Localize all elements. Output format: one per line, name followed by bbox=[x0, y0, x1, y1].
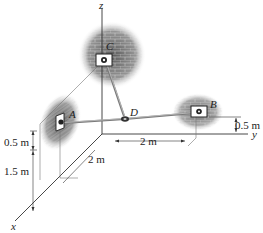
point-a-label: A bbox=[69, 109, 76, 120]
z-axis-label: z bbox=[99, 0, 103, 11]
point-c-label: C bbox=[106, 41, 113, 52]
dim-y-offset: 2 m bbox=[140, 136, 157, 147]
anchor-c bbox=[96, 54, 112, 66]
dim-a-upper: 0.5 m bbox=[4, 137, 29, 148]
x-axis-label: x bbox=[11, 221, 16, 232]
dim-b-height: 0.5 m bbox=[235, 120, 260, 131]
point-b-label: B bbox=[210, 99, 217, 110]
anchor-a bbox=[56, 113, 64, 131]
statics-3d-diagram: z y x C A B D 0.5 m 1.5 m 2 m 2 m 0.5 m bbox=[0, 0, 263, 233]
point-d-label: D bbox=[130, 107, 138, 118]
dim-x-offset: 2 m bbox=[88, 154, 105, 165]
anchor-b bbox=[191, 106, 207, 117]
dim-a-lower: 1.5 m bbox=[4, 166, 29, 177]
ring-d bbox=[121, 116, 129, 122]
